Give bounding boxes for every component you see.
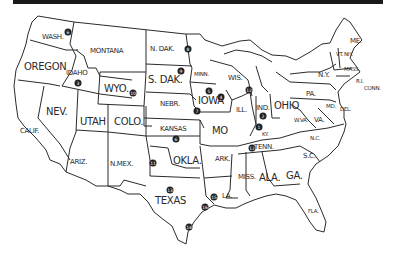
- state-label-ky: KY.: [262, 132, 269, 138]
- state-label-nh: NH.: [344, 52, 353, 58]
- state-label-ga: GA.: [286, 171, 303, 181]
- state-label-utah: UTAH: [80, 117, 106, 127]
- state-label-conn: CONN.: [364, 86, 381, 92]
- state-label-wyo: WYO.: [104, 84, 129, 94]
- state-label-texas: TEXAS: [155, 196, 186, 206]
- state-label-okla: OKLA.: [173, 156, 202, 166]
- state-label-wva: W.VA.: [294, 118, 308, 124]
- numbered-marker: 13: [167, 187, 174, 194]
- state-label-nebr: NEBR.: [160, 101, 180, 108]
- numbered-marker: 16: [202, 204, 209, 211]
- state-label-ny: N.Y.: [318, 72, 329, 79]
- state-label-oregon: OREGON: [24, 62, 66, 72]
- state-label-n-dak: N. DAK.: [150, 46, 174, 53]
- state-label-ariz: ARIZ.: [70, 159, 87, 166]
- state-label-la: LA.: [222, 193, 232, 200]
- numbered-marker: 3: [75, 80, 82, 87]
- state-label-me: ME.: [350, 38, 362, 45]
- state-label-va: VA.: [314, 117, 324, 124]
- state-label-del: DEL.: [340, 107, 351, 113]
- state-label-ohio: OHIO: [274, 101, 299, 111]
- state-label-wash: WASH.: [42, 34, 64, 41]
- state-label-md: MD.: [326, 104, 336, 110]
- state-label-miss: MISS.: [238, 174, 256, 181]
- state-label-sc: S.C.: [303, 153, 316, 160]
- state-label-ala: ALA.: [259, 173, 280, 183]
- state-label-minn: MINN.: [194, 72, 209, 78]
- state-label-pa: PA.: [306, 91, 316, 98]
- numbered-marker: 6: [173, 136, 180, 143]
- numbered-marker: 5: [206, 88, 213, 95]
- numbered-marker: 7: [194, 108, 201, 115]
- state-label-ri: R.I.: [356, 79, 364, 85]
- state-label-colo: COLO.: [114, 117, 143, 127]
- numbered-marker: 10: [130, 90, 137, 97]
- numbered-marker: 12: [249, 145, 256, 152]
- state-label-idaho: IDAHO: [66, 70, 87, 77]
- state-label-vt: VT.: [336, 52, 343, 58]
- numbered-marker: 12: [246, 87, 253, 94]
- numbered-marker: 6: [65, 29, 72, 36]
- numbered-marker: 2: [260, 113, 267, 120]
- state-label-montana: MONTANA: [90, 48, 123, 55]
- state-label-fla: FLA.: [308, 209, 319, 215]
- state-label-mo: MO: [212, 126, 228, 136]
- state-label-kansas: KANSAS: [160, 126, 187, 133]
- state-label-ill: ILL.: [236, 107, 247, 114]
- numbered-marker: 11: [150, 160, 157, 167]
- numbered-marker: 9: [178, 68, 185, 75]
- numbered-marker: 15: [211, 194, 218, 201]
- state-label-nev: NEV.: [46, 107, 67, 117]
- state-label-calif: CALIF.: [20, 128, 39, 135]
- state-label-nc: N.C.: [310, 136, 320, 142]
- numbered-marker: 1: [256, 124, 263, 131]
- state-label-n-mex: N.MEX.: [110, 161, 133, 168]
- state-label-tenn: TENN.: [254, 144, 274, 151]
- state-label-mass: MASS.: [344, 67, 360, 73]
- state-label-ark: ARK.: [215, 156, 230, 163]
- numbered-marker: 14: [186, 224, 193, 231]
- numbered-marker: 8: [185, 46, 192, 53]
- state-label-wis: WIS.: [228, 75, 242, 82]
- state-label-s-dak: S. DAK.: [148, 75, 183, 85]
- numbered-marker: 4: [218, 94, 225, 101]
- state-label-ind: IND.: [256, 105, 270, 112]
